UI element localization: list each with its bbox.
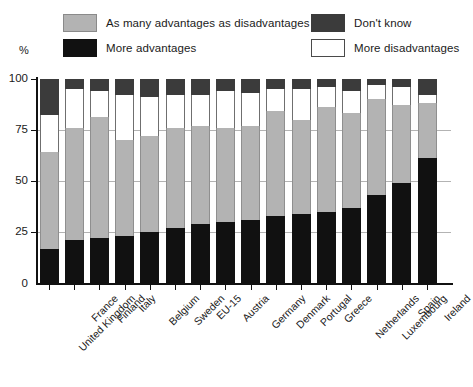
seg-more-advantages	[65, 240, 84, 283]
y-axis-tick-label: 50	[2, 174, 28, 186]
seg-as-many	[191, 126, 210, 224]
black-swatch-icon	[63, 39, 97, 57]
seg-more-advantages	[317, 212, 336, 284]
legend-item-dont-know: Don't know	[311, 14, 412, 32]
seg-as-many	[166, 128, 185, 228]
stacked-bar	[292, 79, 311, 284]
x-axis-tick-label: Finland	[114, 292, 147, 325]
seg-more-advantages	[342, 208, 361, 284]
seg-as-many	[292, 120, 311, 214]
legend-item-more-disadvantages: More disadvantages	[311, 39, 459, 57]
x-axis-tick-mark	[99, 285, 100, 290]
x-axis-tick-label: Netherlands	[373, 292, 422, 341]
seg-more-disadvantages	[191, 95, 210, 126]
x-axis-tick-mark	[150, 285, 151, 290]
seg-dont-know	[90, 79, 109, 91]
stacked-bar	[342, 79, 361, 284]
x-axis-tick-label: Belgium	[166, 292, 201, 327]
stacked-bar	[40, 79, 59, 284]
x-axis-tick-label: Portugal	[317, 292, 353, 328]
seg-more-disadvantages	[342, 91, 361, 114]
seg-more-disadvantages	[140, 97, 159, 136]
x-axis-tick-label: Greece	[341, 292, 374, 325]
x-axis-tick-mark	[351, 285, 352, 290]
x-axis-tick-mark	[427, 285, 428, 290]
seg-more-disadvantages	[216, 91, 235, 128]
seg-more-advantages	[292, 214, 311, 284]
seg-more-advantages	[140, 232, 159, 283]
x-axis-tick-label: Germany	[268, 292, 307, 331]
stacked-bar	[317, 79, 336, 284]
seg-dont-know	[392, 79, 411, 87]
seg-more-advantages	[392, 183, 411, 283]
y-axis-tick-mark	[31, 130, 37, 131]
legend-label-more-disadvantages: More disadvantages	[354, 42, 459, 54]
seg-dont-know	[115, 79, 134, 95]
seg-dont-know	[266, 79, 285, 89]
y-axis-unit-label: %	[19, 44, 29, 56]
stacked-bar	[392, 79, 411, 284]
stacked-bar	[367, 79, 386, 284]
legend-label-dont-know: Don't know	[354, 17, 412, 29]
x-axis-tick-label: Luxembourg	[399, 292, 449, 342]
seg-more-disadvantages	[115, 95, 134, 140]
seg-as-many	[140, 136, 159, 232]
y-axis-tick-label: 0	[2, 277, 28, 289]
seg-as-many	[367, 99, 386, 195]
stacked-bar	[90, 79, 109, 284]
stacked-bar	[115, 79, 134, 284]
seg-dont-know	[317, 79, 336, 87]
seg-more-advantages	[166, 228, 185, 283]
y-axis-tick-mark	[31, 79, 37, 80]
x-axis-tick-label: Ireland	[441, 292, 472, 323]
seg-more-advantages	[418, 158, 437, 283]
seg-more-disadvantages	[65, 89, 84, 128]
x-axis-tick-label: Austria	[240, 292, 272, 324]
stacked-bar	[166, 79, 185, 284]
stacked-bar	[418, 79, 437, 284]
x-axis-tick-mark	[402, 285, 403, 290]
seg-as-many	[40, 152, 59, 248]
seg-more-advantages	[40, 249, 59, 284]
seg-as-many	[90, 117, 109, 238]
y-axis-tick-mark	[31, 232, 37, 233]
seg-dont-know	[216, 79, 235, 91]
seg-as-many	[418, 103, 437, 158]
seg-more-advantages	[367, 195, 386, 283]
seg-dont-know	[191, 79, 210, 95]
seg-as-many	[216, 128, 235, 222]
x-axis-tick-mark	[276, 285, 277, 290]
white-swatch-icon	[311, 39, 345, 57]
seg-more-disadvantages	[90, 91, 109, 118]
seg-more-disadvantages	[317, 87, 336, 108]
seg-more-disadvantages	[266, 89, 285, 112]
x-axis-tick-mark	[200, 285, 201, 290]
x-axis-tick-mark	[225, 285, 226, 290]
x-axis-tick-label: EU-15	[214, 292, 244, 322]
seg-more-disadvantages	[241, 93, 260, 126]
x-axis-tick-mark	[125, 285, 126, 290]
seg-as-many	[342, 113, 361, 207]
seg-dont-know	[292, 79, 311, 89]
seg-more-disadvantages	[292, 89, 311, 120]
plot-area	[38, 79, 451, 284]
y-axis-tick-label: 25	[2, 225, 28, 237]
seg-dont-know	[241, 79, 260, 93]
stacked-bar	[216, 79, 235, 284]
x-axis-tick-label: Italy	[135, 292, 157, 314]
seg-more-advantages	[191, 224, 210, 283]
seg-dont-know	[418, 79, 437, 95]
seg-more-disadvantages	[367, 85, 386, 99]
x-axis-tick-mark	[377, 285, 378, 290]
seg-dont-know	[367, 79, 386, 85]
x-axis-tick-mark	[326, 285, 327, 290]
seg-as-many	[115, 140, 134, 236]
x-axis-tick-label: United Kingdom	[76, 292, 137, 353]
seg-more-disadvantages	[166, 95, 185, 128]
x-axis-tick-label: France	[89, 292, 121, 324]
gray-swatch-icon	[63, 14, 97, 32]
seg-more-disadvantages	[418, 95, 437, 103]
x-axis-tick-mark	[49, 285, 50, 290]
stacked-bar	[140, 79, 159, 284]
